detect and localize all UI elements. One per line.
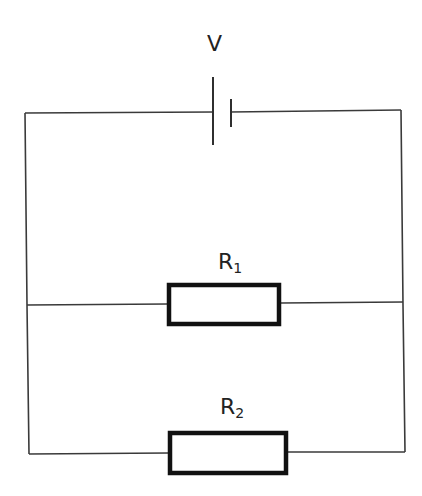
wire-top-right	[230, 110, 401, 112]
wire-top-left	[25, 112, 213, 113]
wire-r2-left	[29, 453, 168, 454]
resistor-1-letter: R	[218, 249, 233, 274]
resistor-1-label: R1	[218, 249, 242, 276]
resistor-2-subscript: 2	[235, 405, 244, 421]
resistor-1	[169, 285, 279, 324]
battery-symbol	[213, 77, 231, 145]
wire-r1-left	[27, 304, 167, 305]
resistor-2	[170, 433, 286, 473]
resistor-1-subscript: 1	[233, 260, 242, 276]
wire-right	[401, 110, 405, 452]
wire-left	[25, 113, 29, 454]
circuit-diagram: V R1 R2	[0, 0, 422, 496]
wire-r1-right	[281, 302, 403, 303]
resistor-2-label: R2	[220, 394, 244, 421]
battery-label: V	[207, 31, 222, 56]
resistor-2-letter: R	[220, 394, 235, 419]
